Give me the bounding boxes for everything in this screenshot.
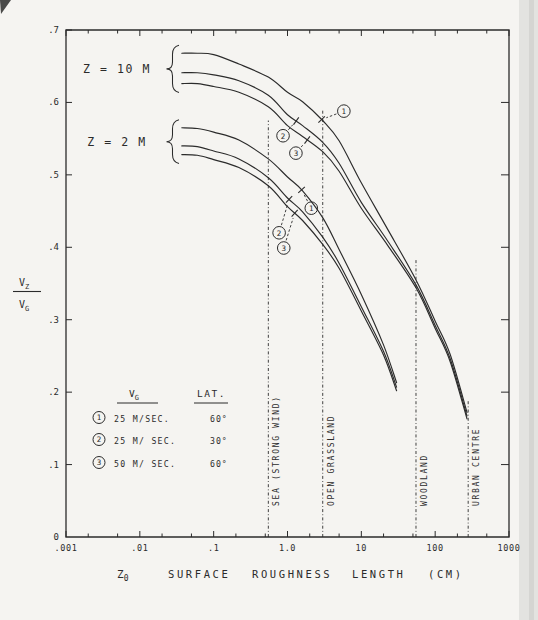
y-axis-label-numerator: VZ [19,277,29,291]
curve-group-label: Z = 10 M [83,62,151,76]
x-axis-title-word: LENGTH [352,568,406,580]
y-tick-label: .1 [48,460,59,470]
annotation-number: 1 [309,204,314,213]
legend-row-lat-value: 60° [210,414,228,424]
annotation-number: 3 [294,149,299,158]
annotation-number: 2 [281,132,286,141]
curve-series-2m-1 [182,128,397,383]
annotation-curve-tick [294,117,299,124]
annotation-number: 3 [282,244,287,253]
curve-group-label: Z = 2 M [87,135,147,149]
x-tick-label: .001 [55,543,78,553]
x-tick-label: 1.0 [279,543,296,553]
legend-header-vg: VG [129,388,139,402]
legend-row-number: 1 [97,413,102,422]
terrain-label: WOODLAND [420,454,429,506]
legend-header-lat: LAT. [197,388,226,399]
curve-series-10m-2 [182,73,467,416]
annotation-number: 2 [277,229,282,238]
y-axis-label-denominator: VG [19,299,29,313]
legend-row-number: 2 [97,435,102,444]
curve-series-2m-3 [182,155,397,391]
x-tick-label: .1 [208,543,219,553]
y-tick-label: .7 [48,25,59,35]
legend-row-lat-value: 30° [210,436,228,446]
curve-series-2m-2 [182,146,397,387]
y-ticks [66,30,509,465]
scan-edge-streak [529,0,534,620]
x-tick-label: 100 [427,543,444,553]
x-axis-title-word: SURFACE [168,568,230,580]
y-tick-label: .2 [48,387,59,397]
legend-row-lat-value: 60° [210,459,228,469]
legend-row-vg-value: 25 M/SEC. [114,414,170,424]
annotation-leader [301,144,304,147]
y-tick-label: 0 [54,532,59,542]
legend-row-vg-value: 25 M/ SEC. [114,436,176,446]
y-tick-label: .4 [48,242,59,252]
curve-group-brace [167,45,180,92]
x-axis-title-symbol: Z0 [117,568,129,583]
x-tick-label: .01 [131,543,148,553]
y-tick-label: .5 [48,170,59,180]
x-axis-title-word: (CM) [428,568,464,580]
terrain-label: SEA (STRONG WIND) [272,395,281,506]
annotation-leader [281,204,287,225]
annotation-number: 1 [342,107,347,116]
y-tick-label: .6 [48,97,59,107]
y-axis-label-numerator-sub: Z [25,283,29,291]
terrain-label: URBAN CENTRE [472,428,481,506]
x-tick-label: 10 [356,543,367,553]
legend-row-number: 3 [97,458,102,467]
curve-group-brace [167,120,180,164]
curve-series-10m-1 [182,53,467,412]
scanned-figure-page: .001.01.11.01010010000.1.2.3.4.5.6.7SEA … [0,0,538,620]
terrain-label: OPEN GRASSLAND [327,415,336,506]
y-tick-label: .3 [48,315,59,325]
legend-row-vg-value: 50 M/ SEC. [114,459,176,469]
curve-series-10m-3 [182,83,467,419]
scan-corner-mark [0,0,11,14]
x-axis-title-symbol-sub: 0 [124,574,129,583]
annotation-leader [326,114,336,118]
wind-ratio-vs-roughness-chart: .001.01.11.01010010000.1.2.3.4.5.6.7SEA … [0,0,538,620]
x-axis-title-word: ROUGHNESS [252,568,332,580]
x-tick-label: 1000 [498,543,521,553]
annotation-leader [286,218,293,240]
annotation-curve-tick [305,136,310,143]
scan-edge-band [519,0,538,620]
y-axis-label-denominator-sub: G [25,305,29,313]
legend-header-vg-sub: G [135,394,139,402]
